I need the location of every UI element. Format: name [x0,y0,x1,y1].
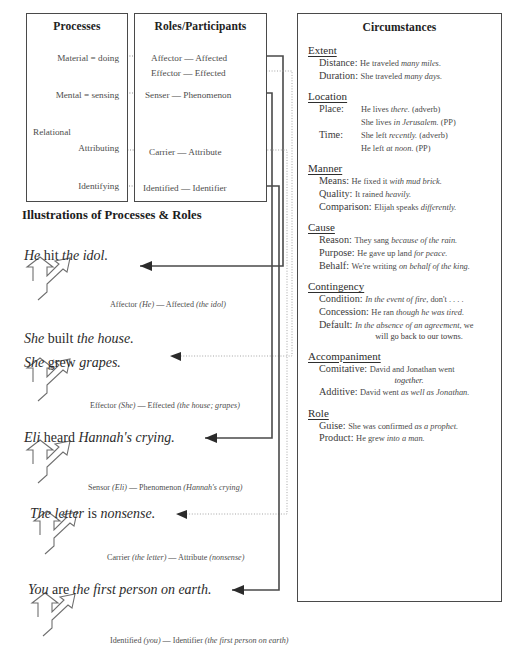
role-row-senser: Senser — Phenomenon [145,90,231,100]
circ-example-purpose: He gave up land for peace. [357,249,447,258]
circ-example-reason: They sang because of the rain. [354,236,457,245]
illustration-rolelabel-4: Carrier (the letter) — Attribute (nonsen… [107,553,244,562]
circ-example-concession: He ran though he was tired. [371,308,464,317]
illustration-sentence-4: The letter is nonsense. [30,506,155,522]
circ-group-extent: Extent Distance: He traveled many miles.… [308,44,493,83]
circ-label-default: Default: [319,319,352,330]
circ-label-purpose: Purpose: [319,247,355,258]
circ-item-comitative: Comitative: David and Jonathan went toge… [308,363,493,386]
illustration-rolelabel-2: Effector (She) — Effected (the house; gr… [90,401,240,410]
circ-label-time: Time: [319,129,353,155]
illustrations-title: Illustrations of Processes & Roles [22,208,202,223]
circ-example-comparison: Elijah speaks differently. [374,203,456,212]
circ-example-duration: She traveled many days. [361,72,442,81]
circ-head-extent: Extent [308,44,493,56]
circ-example-default-cont: will go back to our towns. [319,332,493,343]
circ-example-guise: She was confirmed as a prophet. [348,422,458,431]
circ-item-behalf: Behalf: We're writing on behalf of the k… [308,260,493,273]
circ-head-accompaniment: Accompaniment [308,350,493,362]
circ-group-cause: Cause Reason: They sang because of the r… [308,221,493,273]
circ-group-role: Role Guise: She was confirmed as a proph… [308,407,493,446]
circ-example-comitative-cont: together. [319,376,493,387]
circ-label-distance: Distance: [319,57,357,68]
circ-example-product: He grew into a man. [356,434,425,443]
circ-label-product: Product: [319,432,354,443]
circ-item-time: Time: She left recently. (adverb) He lef… [308,129,493,155]
process-row-material: Material = doing [57,53,119,63]
circ-label-quality: Quality: [319,188,352,199]
circ-head-cause: Cause [308,221,493,233]
circ-example-time: She left recently. (adverb) He left at n… [353,129,448,155]
circ-label-guise: Guise: [319,420,346,431]
connector-carrier [176,150,287,519]
circ-example-comitative: David and Jonathan went [370,365,455,374]
role-chevron-5 [32,593,75,636]
circ-head-role: Role [308,407,493,419]
circ-head-manner: Manner [308,162,493,174]
circ-item-guise: Guise: She was confirmed as a prophet. [308,420,493,433]
circ-head-contingency: Contingency [308,280,493,292]
circ-example-means: He fixed it with mud brick. [352,177,442,186]
circumstances-panel: Circumstances Extent Distance: He travel… [297,13,502,602]
process-row-relational: Relational [33,127,71,137]
role-chevron-3 [27,440,70,483]
roles-panel-title: Roles/Participants [135,20,266,32]
role-row-effector: Effector — Effected [151,68,226,78]
circ-item-quality: Quality: It rained heavily. [308,188,493,201]
illustration-sentence-2a: She built the house. [24,331,134,347]
circ-item-duration: Duration: She traveled many days. [308,70,493,83]
illustration-rolelabel-1: Affector (He) — Affected (the idol) [110,300,226,309]
role-row-affector: Affector — Affected [151,53,227,63]
circ-label-behalf: Behalf: [319,260,349,271]
circ-item-reason: Reason: They sang because of the rain. [308,234,493,247]
roles-panel: Roles/Participants Affector — Affected E… [134,13,267,202]
diagram-canvas: Processes Material = doing Mental = sens… [0,0,510,663]
circ-example-additive: David went as well as Jonathan. [360,388,469,397]
circ-group-manner: Manner Means: He fixed it with mud brick… [308,162,493,214]
circ-head-location: Location [308,90,493,102]
circ-item-concession: Concession: He ran though he was tired. [308,306,493,319]
circ-example-quality: It rained heavily. [355,190,411,199]
illustration-rolelabel-5: Identified (you) — Identifier (the first… [110,636,289,645]
circ-label-comitative: Comitative: [319,363,367,374]
circ-example-behalf: We're writing on behalf of the king. [352,262,470,271]
illustration-sentence-2b: She grew grapes. [24,355,121,371]
illustration-sentence-3: Eli heard Hannah's crying. [24,430,175,446]
role-row-carrier: Carrier — Attribute [149,147,221,157]
processes-panel-title: Processes [27,20,127,32]
illustration-sentence-1: He hit the idol. [24,248,108,264]
circ-label-means: Means: [319,175,349,186]
circ-label-additive: Additive: [319,386,357,397]
circ-example-condition: In the event of fire, don't . . . . [365,295,463,304]
circ-label-concession: Concession: [319,306,369,317]
circ-label-reason: Reason: [319,234,352,245]
role-row-identified: Identified — Identifier [143,183,227,193]
illustration-sentence-5: You are the first person on earth. [28,582,211,598]
circ-item-place: Place: He lives there. (adverb) She live… [308,103,493,129]
process-row-attributing: Attributing [78,143,119,153]
circ-group-accompaniment: Accompaniment Comitative: David and Jona… [308,350,493,399]
circ-item-condition: Condition: In the event of fire, don't .… [308,293,493,306]
circumstances-panel-title: Circumstances [298,21,501,33]
circ-item-means: Means: He fixed it with mud brick. [308,175,493,188]
process-row-mental: Mental = sensing [56,90,119,100]
circumstances-body: Extent Distance: He traveled many miles.… [308,44,493,453]
circ-label-comparison: Comparison: [319,201,372,212]
processes-panel: Processes Material = doing Mental = sens… [26,13,128,202]
circ-example-place: He lives there. (adverb) She lives in Je… [353,103,456,129]
circ-item-purpose: Purpose: He gave up land for peace. [308,247,493,260]
circ-example-default: In the absence of an agreement, we [355,321,474,330]
circ-group-location: Location Place: He lives there. (adverb)… [308,90,493,154]
circ-item-additive: Additive: David went as well as Jonathan… [308,386,493,399]
circ-group-contingency: Contingency Condition: In the event of f… [308,280,493,342]
circ-item-comparison: Comparison: Elijah speaks differently. [308,201,493,214]
circ-label-place: Place: [319,103,353,129]
process-row-identifying: Identifying [78,181,119,191]
circ-label-condition: Condition: [319,293,363,304]
circ-item-product: Product: He grew into a man. [308,432,493,445]
illustration-rolelabel-3: Sensor (Eli) — Phenomenon (Hannah's cryi… [88,483,242,492]
circ-item-default: Default: In the absence of an agreement,… [308,319,493,342]
circ-label-duration: Duration: [319,70,358,81]
circ-item-distance: Distance: He traveled many miles. [308,57,493,70]
circ-example-distance: He traveled many miles. [360,59,441,68]
